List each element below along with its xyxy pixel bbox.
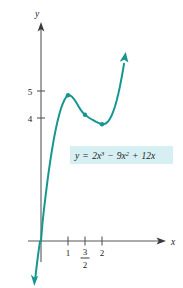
equation-equals: = bbox=[82, 151, 88, 161]
marked-points-group bbox=[66, 93, 104, 126]
graph-svg: y x 5 4 1 3 2 2 bbox=[0, 0, 183, 288]
x-tick-label-1: 1 bbox=[66, 248, 71, 258]
x-tick-label-2: 2 bbox=[100, 248, 105, 258]
equation-term3-var: x bbox=[150, 151, 156, 161]
y-tick-label-4: 4 bbox=[28, 114, 33, 124]
curve-arrowhead-up bbox=[120, 52, 129, 63]
x-axis-label: x bbox=[170, 237, 176, 247]
axes-group bbox=[28, 22, 166, 262]
function-curve bbox=[35, 64, 124, 279]
point-inflection bbox=[83, 113, 87, 117]
y-axis-label: y bbox=[34, 9, 40, 19]
fraction-denominator: 2 bbox=[83, 260, 88, 270]
equation-operator-2: + bbox=[132, 151, 138, 161]
equation-lhs: y bbox=[74, 151, 80, 161]
equation-operator-1: − bbox=[107, 151, 113, 161]
x-tick-label-3-2: 3 2 bbox=[81, 247, 90, 270]
function-curve-group bbox=[31, 52, 128, 286]
y-tick-label-5: 5 bbox=[28, 87, 33, 97]
equation-term3-coef: 12 bbox=[141, 151, 151, 161]
fraction-numerator: 3 bbox=[83, 247, 88, 257]
equation-label: y=2x3−9x2+12x bbox=[70, 146, 173, 164]
point-local-maximum bbox=[66, 93, 70, 97]
curve-arrowhead-down bbox=[31, 275, 38, 287]
point-local-minimum bbox=[100, 122, 104, 126]
function-graph-figure: y x 5 4 1 3 2 2 bbox=[0, 0, 183, 288]
